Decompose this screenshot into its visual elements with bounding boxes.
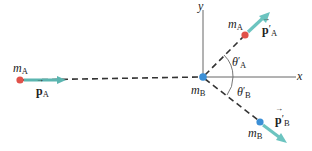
momentum-b-final-label: p′B: [275, 114, 290, 128]
angle-a-label: θ′A: [232, 56, 246, 70]
mass-a-final-label: mA: [228, 18, 243, 32]
momentum-a-initial-label: pA: [36, 85, 49, 99]
y-axis-label: y: [198, 0, 203, 12]
mass-b-origin-label: mB: [191, 84, 205, 98]
x-axis-label: x: [297, 70, 302, 82]
mass-a-initial-dot: [16, 76, 23, 83]
angle-b-label: θ′B: [237, 86, 251, 100]
angle-arc-b: [227, 77, 233, 95]
mass-a-initial-label: mA: [13, 62, 28, 76]
momentum-a-final-label: p′A: [262, 24, 277, 38]
momentum-arrow-a-initial: [24, 76, 66, 84]
mass-b-final-dot: [256, 118, 263, 125]
mass-b-final-label: mB: [248, 127, 262, 141]
mass-a-final-dot: [241, 31, 248, 38]
mass-b-origin-dot: [199, 73, 207, 81]
